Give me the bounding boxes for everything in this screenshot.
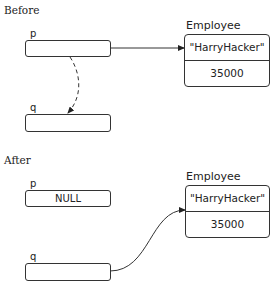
before-q-pointer-box <box>25 114 111 132</box>
after-p-pointer-box: NULL <box>25 190 111 207</box>
after-employee-salary: 35000 <box>186 212 269 238</box>
before-employee-name: "HarryHacker" <box>185 35 269 61</box>
after-q-pointer-arrow <box>110 210 185 271</box>
before-p-pointer-box <box>25 40 111 57</box>
after-employee-name: "HarryHacker" <box>186 186 269 212</box>
after-q-label: q <box>30 251 36 262</box>
after-p-label: p <box>30 178 36 189</box>
before-employee-salary: 35000 <box>185 61 269 87</box>
after-q-pointer-box <box>25 263 111 281</box>
before-move-arrow <box>68 57 79 113</box>
before-employee-object: "HarryHacker" 35000 <box>184 34 270 87</box>
before-q-label: q <box>30 102 36 113</box>
after-p-value: NULL <box>55 193 81 204</box>
after-employee-object: "HarryHacker" 35000 <box>185 185 270 238</box>
before-p-label: p <box>30 28 36 39</box>
after-heading: After <box>4 154 31 166</box>
after-object-type-label: Employee <box>186 170 240 183</box>
before-object-type-label: Employee <box>186 19 240 32</box>
before-heading: Before <box>4 4 39 16</box>
